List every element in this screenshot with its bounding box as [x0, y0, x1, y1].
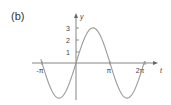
- panel-label: (b): [11, 10, 24, 22]
- x-tick-label-neg-pi: -π: [36, 67, 43, 74]
- y-tick-label-1: 1: [66, 49, 70, 56]
- y-tick-label-2: 2: [66, 37, 70, 44]
- x-tick-label-2pi: 2π: [136, 67, 145, 74]
- x-axis-arrow-icon: [153, 61, 158, 65]
- x-tick-label-pi: π: [107, 67, 112, 74]
- figure: (b) 3 2 1 -π π 2π y t: [0, 0, 171, 105]
- y-axis-arrow-icon: [74, 13, 78, 18]
- sine-plot: 3 2 1 -π π 2π y t: [0, 0, 171, 105]
- x-axis-label: t: [160, 67, 163, 74]
- y-tick-label-3: 3: [66, 25, 70, 32]
- y-axis-label: y: [79, 13, 84, 21]
